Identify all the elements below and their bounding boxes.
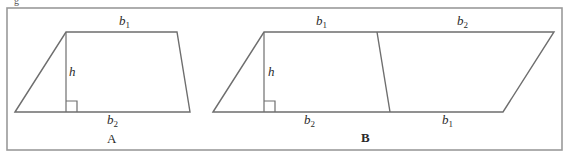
label-b-bottom-right-base: b1 bbox=[442, 112, 453, 129]
caption-b: B bbox=[361, 130, 370, 145]
caption-a: A bbox=[107, 131, 117, 146]
label-a-bottom-base: b2 bbox=[107, 112, 118, 129]
right-angle-marker-b bbox=[264, 101, 275, 112]
trapezoid-outline bbox=[15, 32, 190, 112]
shape-b-parallelogram: b1 b2 h b2 b1 B bbox=[213, 13, 554, 145]
label-b-top-right-base: b2 bbox=[457, 13, 468, 30]
label-b-bottom-left-base: b2 bbox=[304, 112, 315, 129]
trapezoid-divider-line bbox=[377, 32, 390, 112]
figure-frame bbox=[7, 8, 562, 150]
figure-prefix-fragment: g bbox=[14, 0, 19, 6]
label-a-height: h bbox=[69, 64, 76, 79]
shape-a-trapezoid: b1 h b2 A bbox=[15, 13, 190, 146]
right-angle-marker-a bbox=[66, 101, 77, 112]
label-b-height: h bbox=[268, 64, 275, 79]
trapezoid-parallelogram-diagram: g b1 h b2 A b1 b2 h bbox=[0, 0, 571, 158]
label-a-top-base: b1 bbox=[119, 13, 130, 30]
label-b-top-left-base: b1 bbox=[316, 13, 327, 30]
